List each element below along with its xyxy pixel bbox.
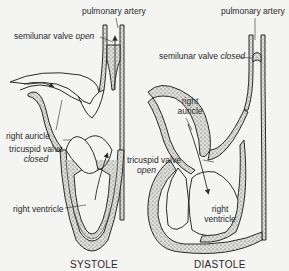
right-auricle-line1: right [170, 96, 210, 106]
diastole-right-auricle-label: right auricle [170, 96, 210, 116]
systole-tricuspid-valve-label: tricuspid valve closed [6, 144, 66, 164]
systole-semilunar-valve-label: semilunar valve open [14, 31, 94, 41]
systole-pulmonary-artery-label: pulmonary artery [82, 6, 146, 16]
diastole-tricuspid-valve-label: tricuspid valve open [127, 155, 181, 175]
semilunar-valve-state: closed [220, 51, 245, 61]
tricuspid-valve-state: open [127, 165, 181, 175]
right-auricle-line2: auricle [170, 106, 210, 116]
diastole-right-ventricle-label: right ventricle [200, 204, 240, 224]
systole-title: SYSTOLE [70, 259, 118, 270]
diastole-semilunar-valve-label: semilunar valve closed [159, 51, 245, 61]
right-ventricle-line1: right [200, 204, 240, 214]
diastole-leader-lines [186, 18, 255, 162]
systole-right-ventricle-label: right ventricle [13, 204, 64, 214]
diastole-pulmonary-artery-label: pulmonary artery [221, 6, 285, 16]
right-ventricle-line2: ventricle [200, 214, 240, 224]
tricuspid-valve-text: tricuspid valve [127, 155, 181, 165]
tricuspid-valve-text: tricuspid valve [6, 144, 66, 154]
semilunar-valve-text: semilunar valve [159, 51, 218, 61]
tricuspid-valve-state: closed [6, 154, 66, 164]
diastole-title: DIASTOLE [194, 259, 246, 270]
systole-right-auricle-label: right auricle [6, 131, 50, 141]
semilunar-valve-state: open [75, 31, 94, 41]
semilunar-valve-text: semilunar valve [14, 31, 73, 41]
